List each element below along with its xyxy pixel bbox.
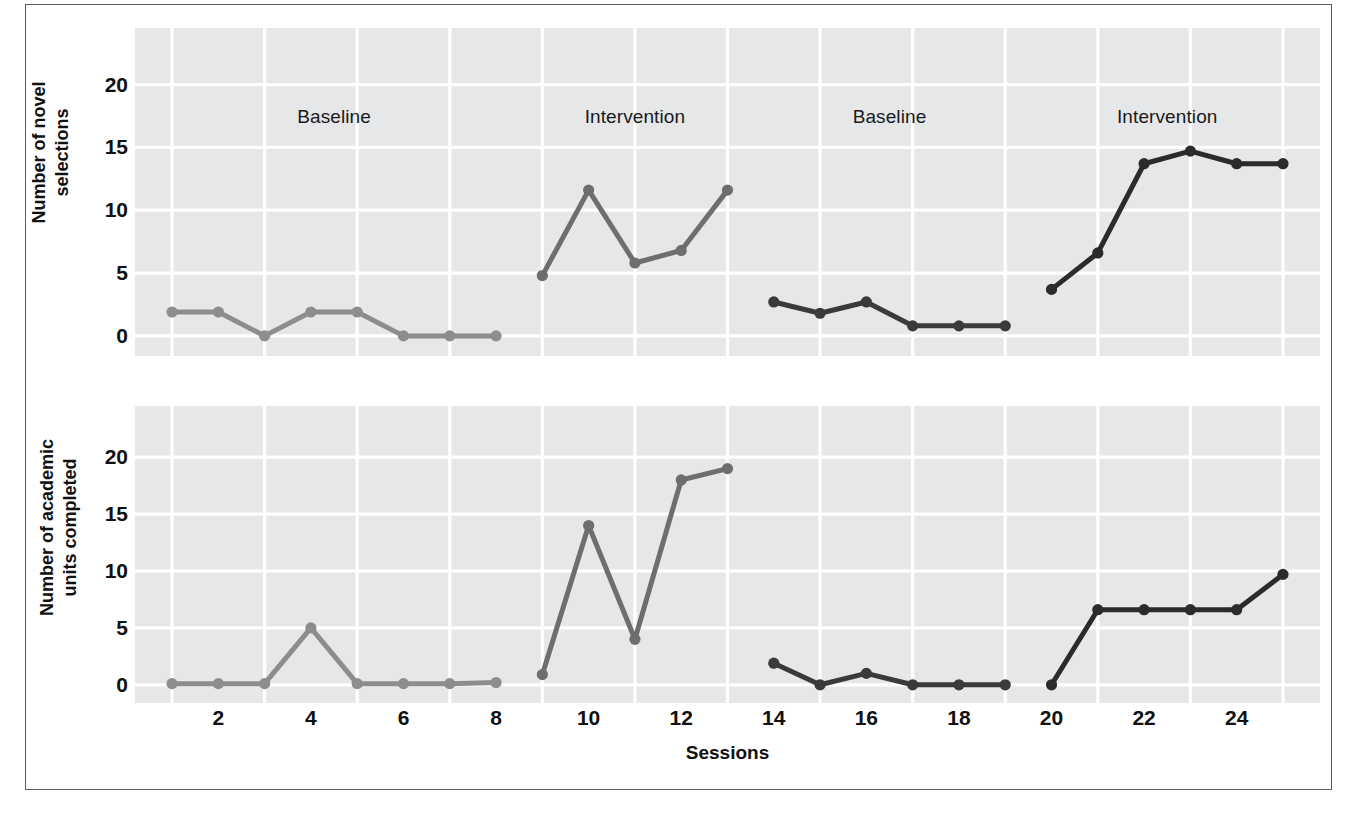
- data-point-marker: [583, 520, 594, 531]
- y-tick-label: 0: [116, 324, 128, 348]
- x-tick-label: 2: [212, 706, 224, 730]
- data-point-marker: [907, 679, 918, 690]
- x-tick-label: 24: [1225, 706, 1248, 730]
- y-tick-label: 10: [105, 198, 128, 222]
- x-tick-label: 10: [577, 706, 600, 730]
- data-point-marker: [1277, 158, 1288, 169]
- y-tick-label: 0: [116, 673, 128, 697]
- data-point-marker: [861, 296, 872, 307]
- data-point-marker: [444, 678, 455, 689]
- data-point-marker: [305, 306, 316, 317]
- series-line: [774, 302, 1005, 326]
- x-tick-label: 14: [762, 706, 785, 730]
- y-axis-label-top: Number of novel selections: [28, 43, 73, 263]
- data-point-marker: [1139, 604, 1150, 615]
- chart-panel-academic-units: [135, 406, 1320, 703]
- data-point-marker: [676, 245, 687, 256]
- x-tick-label: 4: [305, 706, 317, 730]
- x-tick-label: 12: [670, 706, 693, 730]
- x-axis-label: Sessions: [135, 742, 1320, 764]
- data-point-marker: [953, 679, 964, 690]
- data-point-marker: [490, 330, 501, 341]
- data-series-bottom: [135, 406, 1320, 703]
- data-point-marker: [768, 296, 779, 307]
- data-point-marker: [352, 306, 363, 317]
- data-point-marker: [259, 678, 270, 689]
- series-line: [774, 663, 1005, 685]
- chart-panel-novel-selections: BaselineInterventionBaselineIntervention: [135, 28, 1320, 356]
- data-point-marker: [1231, 158, 1242, 169]
- figure-container: BaselineInterventionBaselineIntervention…: [0, 0, 1347, 814]
- data-point-marker: [814, 308, 825, 319]
- data-point-marker: [629, 634, 640, 645]
- data-point-marker: [166, 306, 177, 317]
- data-point-marker: [722, 185, 733, 196]
- data-point-marker: [1185, 604, 1196, 615]
- data-point-marker: [583, 185, 594, 196]
- data-point-marker: [722, 463, 733, 474]
- y-tick-label: 10: [105, 559, 128, 583]
- data-point-marker: [861, 668, 872, 679]
- y-tick-label: 20: [105, 445, 128, 469]
- data-point-marker: [1231, 604, 1242, 615]
- data-point-marker: [1185, 146, 1196, 157]
- data-point-marker: [537, 669, 548, 680]
- data-point-marker: [490, 677, 501, 688]
- data-point-marker: [768, 658, 779, 669]
- data-point-marker: [444, 330, 455, 341]
- y-axis-ticks-top: 05101520: [72, 28, 128, 356]
- y-tick-label: 15: [105, 502, 128, 526]
- data-point-marker: [953, 320, 964, 331]
- data-point-marker: [537, 270, 548, 281]
- data-point-marker: [1046, 679, 1057, 690]
- data-point-marker: [213, 678, 224, 689]
- x-axis-ticks: 24681012141618202224: [135, 706, 1320, 740]
- data-point-marker: [1092, 604, 1103, 615]
- x-tick-label: 18: [947, 706, 970, 730]
- data-point-marker: [907, 320, 918, 331]
- data-point-marker: [1139, 158, 1150, 169]
- series-line: [1052, 574, 1283, 684]
- data-point-marker: [629, 257, 640, 268]
- data-point-marker: [213, 306, 224, 317]
- data-point-marker: [398, 678, 409, 689]
- series-line: [172, 628, 496, 684]
- x-tick-label: 6: [398, 706, 410, 730]
- x-tick-label: 22: [1132, 706, 1155, 730]
- series-line: [1052, 151, 1283, 289]
- y-tick-label: 15: [105, 135, 128, 159]
- data-point-marker: [166, 678, 177, 689]
- data-point-marker: [305, 622, 316, 633]
- data-point-marker: [1046, 284, 1057, 295]
- data-point-marker: [1277, 569, 1288, 580]
- data-point-marker: [259, 330, 270, 341]
- y-tick-label: 20: [105, 73, 128, 97]
- y-tick-label: 5: [116, 261, 128, 285]
- data-point-marker: [1000, 679, 1011, 690]
- data-point-marker: [352, 678, 363, 689]
- data-series-top: [135, 28, 1320, 356]
- x-tick-label: 20: [1040, 706, 1063, 730]
- data-point-marker: [1000, 320, 1011, 331]
- data-point-marker: [398, 330, 409, 341]
- y-axis-label-bottom: Number of academic units completed: [36, 418, 81, 638]
- x-tick-label: 16: [855, 706, 878, 730]
- data-point-marker: [1092, 247, 1103, 258]
- y-tick-label: 5: [116, 616, 128, 640]
- x-tick-label: 8: [490, 706, 502, 730]
- data-point-marker: [814, 679, 825, 690]
- data-point-marker: [676, 474, 687, 485]
